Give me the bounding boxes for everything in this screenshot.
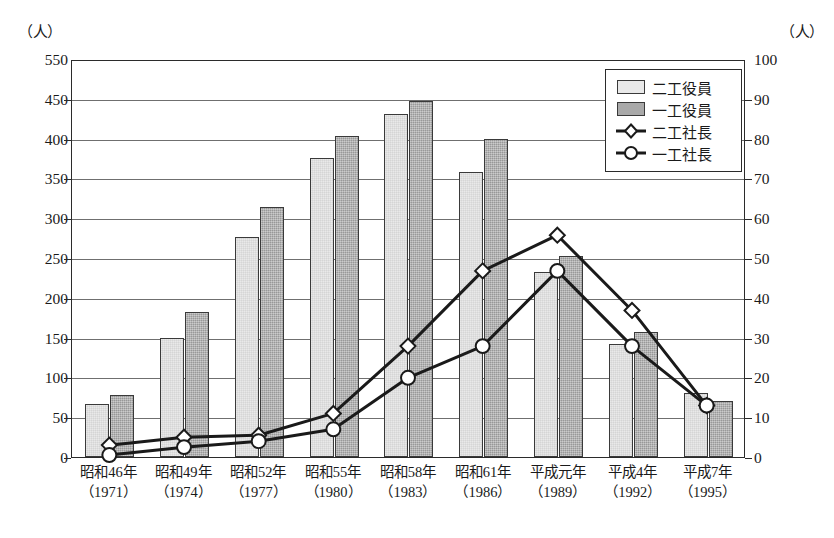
x-axis-label-western-year: （1992） [595, 483, 670, 503]
marker-circle-ikkou-shacho [326, 422, 340, 436]
x-axis-label: 昭和49年（1974） [146, 463, 221, 502]
x-axis-label: 昭和46年（1971） [71, 463, 146, 502]
left-axis-tick-mark [64, 378, 71, 379]
marker-circle-ikkou-shacho [550, 264, 564, 278]
left-axis-unit-label: （人） [18, 20, 62, 41]
right-axis-tick-mark [745, 339, 752, 340]
right-axis-tick-mark [745, 179, 752, 180]
marker-circle-ikkou-shacho [252, 434, 266, 448]
right-axis-tick-mark [745, 100, 752, 101]
left-axis-tick-label: 300 [20, 211, 68, 227]
left-axis-tick-mark [64, 259, 71, 260]
legend: 二工役員一工役員二工社長一工社長 [605, 69, 742, 172]
x-axis-label-western-year: （1989） [520, 483, 595, 503]
left-axis-tick-label: 350 [20, 171, 68, 187]
right-axis-tick-label: 30 [754, 331, 798, 347]
left-axis-tick-label: 150 [20, 331, 68, 347]
legend-item-label: 二工役員 [648, 77, 712, 98]
right-axis-tick-mark [745, 219, 752, 220]
x-axis-label-western-year: （1983） [371, 483, 446, 503]
legend-item-label: 一工社長 [648, 143, 712, 164]
x-axis-label-western-year: （1977） [221, 483, 296, 503]
right-axis-tick-mark [745, 378, 752, 379]
marker-circle-ikkou-shacho [700, 399, 714, 413]
x-axis-label-western-year: （1980） [296, 483, 371, 503]
right-axis-tick-label: 40 [754, 291, 798, 307]
left-axis-tick-mark [64, 299, 71, 300]
diamond-marker-icon [615, 123, 647, 139]
right-axis-tick-label: 20 [754, 370, 798, 386]
x-axis-label: 平成7年（1995） [670, 463, 745, 502]
circle-marker-icon [615, 145, 647, 161]
right-axis-tick-label: 100 [754, 52, 798, 68]
x-axis-label-era: 昭和46年 [71, 463, 146, 483]
legend-item: 一工社長 [614, 142, 733, 164]
legend-marker-icon [614, 123, 648, 139]
x-axis-label-era: 昭和61年 [445, 463, 520, 483]
marker-circle-ikkou-shacho [177, 440, 191, 454]
x-axis-label: 平成元年（1989） [520, 463, 595, 502]
marker-circle-ikkou-shacho [625, 339, 639, 353]
right-axis-tick-label: 80 [754, 132, 798, 148]
legend-item: 二工社長 [614, 120, 733, 142]
light-bar-swatch-icon [617, 80, 645, 94]
x-axis-label: 平成4年（1992） [595, 463, 670, 502]
left-axis-tick-label: 0 [20, 450, 68, 466]
right-axis-tick-label: 50 [754, 251, 798, 267]
legend-swatch [614, 80, 648, 94]
marker-circle-ikkou-shacho [476, 339, 490, 353]
x-axis-label-era: 昭和55年 [296, 463, 371, 483]
right-axis-tick-mark [745, 418, 752, 419]
marker-circle-ikkou-shacho [401, 371, 415, 385]
left-axis-tick-mark [64, 219, 71, 220]
x-axis-label: 昭和55年（1980） [296, 463, 371, 502]
chart-figure: （人） （人） 550450400350300250200150100500 1… [0, 0, 834, 538]
x-axis-label: 昭和58年（1983） [371, 463, 446, 502]
gridline [72, 458, 744, 459]
left-axis-tick-mark [64, 339, 71, 340]
marker-circle-ikkou-shacho [102, 448, 116, 462]
left-axis-tick-mark [64, 458, 71, 459]
left-axis-tick-mark [64, 100, 71, 101]
line-ikkou-shacho [109, 271, 706, 455]
x-axis-label-western-year: （1974） [146, 483, 221, 503]
legend-item-label: 二工社長 [648, 121, 712, 142]
left-axis-tick-label: 550 [20, 52, 68, 68]
x-axis-label-western-year: （1986） [445, 483, 520, 503]
x-axis-label: 昭和61年（1986） [445, 463, 520, 502]
right-axis-tick-label: 60 [754, 211, 798, 227]
right-axis-tick-label: 90 [754, 92, 798, 108]
right-axis-unit-label: （人） [780, 20, 824, 41]
right-axis-tick-label: 10 [754, 410, 798, 426]
left-axis-tick-label: 400 [20, 132, 68, 148]
legend-marker-icon [614, 145, 648, 161]
legend-swatch [614, 102, 648, 116]
x-axis-label-era: 昭和58年 [371, 463, 446, 483]
left-axis-tick-label: 100 [20, 370, 68, 386]
left-axis-tick-label: 200 [20, 291, 68, 307]
x-axis-label-era: 平成7年 [670, 463, 745, 483]
legend-item: 一工役員 [614, 98, 733, 120]
left-axis-tick-mark [64, 179, 71, 180]
right-axis-tick-label: 0 [754, 450, 798, 466]
left-axis-tick-label: 50 [20, 410, 68, 426]
right-axis-tick-mark [745, 299, 752, 300]
x-axis-label-western-year: （1971） [71, 483, 146, 503]
left-axis-tick-label: 450 [20, 92, 68, 108]
x-axis-labels: 昭和46年（1971）昭和49年（1974）昭和52年（1977）昭和55年（1… [71, 463, 745, 523]
right-axis-tick-mark [745, 259, 752, 260]
x-axis-label-era: 平成4年 [595, 463, 670, 483]
x-axis-label-era: 平成元年 [520, 463, 595, 483]
right-axis-tick-label: 70 [754, 171, 798, 187]
left-axis-tick-mark [64, 418, 71, 419]
right-axis-tick-mark [745, 458, 752, 459]
legend-item-label: 一工役員 [648, 99, 712, 120]
right-axis-tick-mark [745, 140, 752, 141]
left-axis-tick-label: 250 [20, 251, 68, 267]
x-axis-label-western-year: （1995） [670, 483, 745, 503]
x-axis-label-era: 昭和49年 [146, 463, 221, 483]
x-axis-label: 昭和52年（1977） [221, 463, 296, 502]
legend-item: 二工役員 [614, 76, 733, 98]
x-axis-label-era: 昭和52年 [221, 463, 296, 483]
dark-bar-swatch-icon [617, 102, 645, 116]
